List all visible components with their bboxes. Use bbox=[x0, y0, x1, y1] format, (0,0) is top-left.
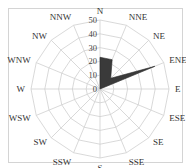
direction-label-nne: NNE bbox=[129, 12, 148, 22]
direction-label-w: W bbox=[17, 84, 26, 94]
direction-label-s: S bbox=[97, 163, 102, 168]
spoke-sw bbox=[51, 89, 100, 138]
direction-label-wsw: WSW bbox=[9, 113, 32, 123]
direction-label-nw: NW bbox=[32, 31, 47, 41]
direction-label-ese: ESE bbox=[169, 113, 186, 123]
direction-label-n: N bbox=[97, 6, 104, 16]
tick-label-20: 20 bbox=[89, 56, 98, 66]
direction-label-nnw: NNW bbox=[50, 12, 72, 22]
direction-label-sse: SSE bbox=[129, 157, 145, 167]
wind-rose-chart: 01020304050 NNNENEENEEESESESSESSSWSWWSWW… bbox=[0, 0, 186, 168]
direction-label-se: SE bbox=[153, 137, 164, 147]
direction-label-wnw: WNW bbox=[7, 55, 31, 65]
direction-label-e: E bbox=[175, 84, 181, 94]
tick-label-0: 0 bbox=[93, 84, 97, 94]
spoke-se bbox=[100, 89, 149, 138]
tick-label-30: 30 bbox=[89, 43, 98, 53]
direction-label-ne: NE bbox=[153, 31, 165, 41]
tick-label-10: 10 bbox=[89, 70, 98, 80]
direction-label-sw: SW bbox=[33, 137, 47, 147]
tick-label-40: 40 bbox=[89, 29, 98, 39]
direction-label-ssw: SSW bbox=[53, 157, 72, 167]
direction-label-ene: ENE bbox=[169, 55, 186, 65]
tick-label-50: 50 bbox=[89, 15, 98, 25]
